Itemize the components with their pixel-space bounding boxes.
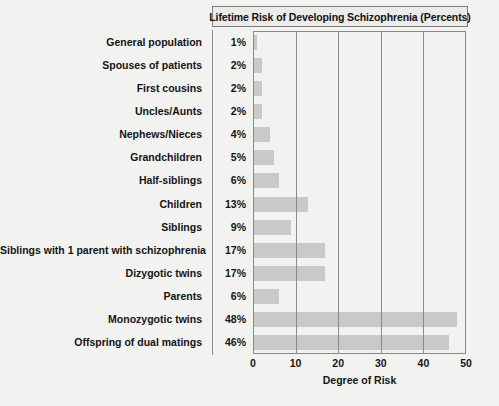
bar-cell: [253, 262, 466, 285]
category-label: Offspring of dual matings: [0, 331, 202, 354]
category-label: Half-siblings: [0, 169, 202, 192]
x-axis-label: Degree of Risk: [253, 374, 466, 386]
bar-cell: [253, 31, 466, 54]
category-label: General population: [0, 31, 202, 54]
category-label: First cousins: [0, 77, 202, 100]
x-tick-label: 50: [451, 357, 481, 369]
x-tick-label: 0: [238, 357, 268, 369]
bar: [253, 150, 274, 165]
bar-cell: [253, 169, 466, 192]
bar-cell: [253, 331, 466, 354]
bar-cell: [253, 239, 466, 262]
x-axis-ticks: 01020304050: [253, 357, 466, 371]
chart-title: Lifetime Risk of Developing Schizophreni…: [209, 11, 470, 23]
x-tick-label: 10: [281, 357, 311, 369]
bar-cell: [253, 216, 466, 239]
bar: [253, 243, 325, 258]
category-label: Siblings: [0, 216, 202, 239]
gridline: [338, 31, 339, 354]
category-label: Siblings with 1 parent with schizophreni…: [0, 239, 202, 262]
bar: [253, 173, 279, 188]
percent-value: 46%: [214, 331, 246, 354]
percent-value: 2%: [214, 54, 246, 77]
bar: [253, 58, 262, 73]
category-label: Nephews/Nieces: [0, 123, 202, 146]
percent-value: 4%: [214, 123, 246, 146]
bar: [253, 266, 325, 281]
x-tick-label: 30: [366, 357, 396, 369]
bar-cell: [253, 100, 466, 123]
bar: [253, 127, 270, 142]
gridline: [296, 31, 297, 354]
x-tick-label: 40: [408, 357, 438, 369]
bar: [253, 289, 279, 304]
percent-value: 13%: [214, 193, 246, 216]
bar-cell: [253, 54, 466, 77]
schizophrenia-risk-chart: Lifetime Risk of Developing Schizophreni…: [0, 0, 499, 406]
bar-cell: [253, 123, 466, 146]
bar-cell: [253, 146, 466, 169]
bar: [253, 220, 291, 235]
x-tick-label: 20: [323, 357, 353, 369]
gridline: [423, 31, 424, 354]
percent-value: 9%: [214, 216, 246, 239]
category-label: Uncles/Aunts: [0, 100, 202, 123]
bar-cell: [253, 285, 466, 308]
bar: [253, 312, 457, 327]
percent-value: 17%: [214, 262, 246, 285]
percent-value: 48%: [214, 308, 246, 331]
bar: [253, 81, 262, 96]
bar: [253, 197, 308, 212]
category-label: Monozygotic twins: [0, 308, 202, 331]
percent-value: 5%: [214, 146, 246, 169]
percent-value: 2%: [214, 100, 246, 123]
percent-value: 17%: [214, 239, 246, 262]
bar-cell: [253, 193, 466, 216]
category-label: Parents: [0, 285, 202, 308]
bar-cell: [253, 308, 466, 331]
bar-cell: [253, 77, 466, 100]
percent-value: 2%: [214, 77, 246, 100]
category-label: Spouses of patients: [0, 54, 202, 77]
percent-value: 6%: [214, 285, 246, 308]
bar: [253, 35, 257, 50]
category-label: Grandchildren: [0, 146, 202, 169]
bar: [253, 335, 449, 350]
percent-value: 6%: [214, 169, 246, 192]
category-label: Dizygotic twins: [0, 262, 202, 285]
bar: [253, 104, 262, 119]
percent-value: 1%: [214, 31, 246, 54]
category-label: Children: [0, 193, 202, 216]
gridline: [381, 31, 382, 354]
chart-title-banner: Lifetime Risk of Developing Schizophreni…: [212, 6, 468, 27]
